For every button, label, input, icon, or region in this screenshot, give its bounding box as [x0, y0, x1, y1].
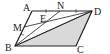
label-m: M: [13, 22, 22, 33]
geometry-figure: A N D E M B C: [0, 0, 110, 54]
label-b: B: [5, 42, 12, 53]
label-e: E: [40, 13, 46, 24]
label-d: D: [94, 6, 101, 17]
label-n: N: [57, 0, 64, 11]
label-c: C: [77, 44, 84, 54]
label-a: A: [23, 2, 31, 13]
